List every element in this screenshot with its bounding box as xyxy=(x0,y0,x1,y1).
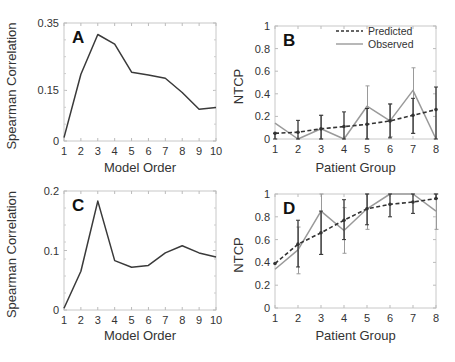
x-tick-label: 3 xyxy=(95,314,101,326)
data-marker xyxy=(319,127,323,131)
x-axis-label: Patient Group xyxy=(315,160,395,175)
x-tick-label: 4 xyxy=(112,145,118,157)
plot-frame xyxy=(275,194,436,308)
x-tick-label: 4 xyxy=(112,314,118,326)
panel-b: 1234567800.20.40.60.81Patient GroupNTCPB… xyxy=(231,20,439,175)
x-tick-label: 8 xyxy=(179,145,185,157)
panel-letter: D xyxy=(283,199,295,218)
data-marker xyxy=(388,119,392,123)
x-tick-label: 6 xyxy=(387,312,393,324)
y-tick-label: 0.35 xyxy=(38,17,59,29)
x-axis-label: Model Order xyxy=(104,160,177,175)
y-tick-label: 0.2 xyxy=(255,279,270,291)
y-tick-label: 0.4 xyxy=(255,88,270,100)
y-tick-label: 0.4 xyxy=(255,256,270,268)
data-marker xyxy=(273,262,277,266)
panel-letter: C xyxy=(72,196,84,215)
data-marker xyxy=(411,113,415,117)
x-tick-label: 7 xyxy=(410,312,416,324)
series-line-spearman-correlation xyxy=(64,201,216,308)
x-tick-label: 4 xyxy=(341,312,347,324)
x-tick-label: 3 xyxy=(318,143,324,155)
x-tick-label: 7 xyxy=(162,314,168,326)
data-marker xyxy=(388,202,392,206)
x-tick-label: 1 xyxy=(61,314,67,326)
y-tick-label: 0.15 xyxy=(38,84,59,96)
y-axis-label: NTCP xyxy=(231,237,246,272)
y-tick-label: 0.6 xyxy=(255,234,270,246)
series-line-spearman-correlation xyxy=(64,35,216,138)
legend-label: Predicted xyxy=(368,25,413,37)
data-marker xyxy=(273,132,277,136)
y-tick-label: 0.8 xyxy=(255,211,270,223)
y-tick-label: 0.1 xyxy=(44,245,59,257)
panel-a: 1234567891000.150.35Model OrderSpearman … xyxy=(4,17,222,175)
y-tick-label: 0.6 xyxy=(255,65,270,77)
x-tick-label: 3 xyxy=(95,145,101,157)
x-tick-label: 6 xyxy=(145,314,151,326)
y-tick-label: 0 xyxy=(264,133,270,145)
x-tick-label: 10 xyxy=(210,314,222,326)
y-tick-label: 0 xyxy=(53,135,59,147)
x-tick-label: 7 xyxy=(162,145,168,157)
series-line-predicted xyxy=(275,199,436,264)
data-marker xyxy=(319,231,323,235)
data-marker xyxy=(411,200,415,204)
chart-canvas: 1234567891000.150.35Model OrderSpearman … xyxy=(0,0,455,362)
panel-c: 1234567891000.10.2Model OrderSpearman Co… xyxy=(4,185,222,343)
panel-letter: B xyxy=(283,31,295,50)
x-axis-label: Patient Group xyxy=(315,328,395,343)
x-tick-label: 2 xyxy=(78,145,84,157)
x-tick-label: 1 xyxy=(272,143,278,155)
y-axis-label: Spearman Correlation xyxy=(4,191,19,318)
series-line-observed xyxy=(275,194,436,269)
y-tick-label: 1 xyxy=(264,188,270,200)
y-tick-label: 0.2 xyxy=(44,185,59,197)
x-tick-label: 9 xyxy=(196,314,202,326)
data-marker xyxy=(365,207,369,211)
y-axis-label: Spearman Correlation xyxy=(4,22,19,149)
x-tick-label: 5 xyxy=(364,312,370,324)
x-tick-label: 8 xyxy=(179,314,185,326)
figure: 1234567891000.150.35Model OrderSpearman … xyxy=(0,0,455,362)
legend-label: Observed xyxy=(368,38,414,50)
x-tick-label: 8 xyxy=(433,312,439,324)
x-tick-label: 6 xyxy=(387,143,393,155)
y-tick-label: 0.8 xyxy=(255,43,270,55)
y-tick-label: 1 xyxy=(264,20,270,32)
data-marker xyxy=(342,125,346,129)
y-axis-label: NTCP xyxy=(231,69,246,104)
x-tick-label: 1 xyxy=(61,145,67,157)
x-tick-label: 2 xyxy=(295,312,301,324)
data-marker xyxy=(296,242,300,246)
x-tick-label: 9 xyxy=(196,145,202,157)
panel-letter: A xyxy=(72,28,84,47)
x-tick-label: 4 xyxy=(341,143,347,155)
x-tick-label: 2 xyxy=(295,143,301,155)
panel-d: 1234567800.20.40.60.81Patient GroupNTCPD xyxy=(231,188,439,343)
x-tick-label: 8 xyxy=(433,143,439,155)
x-tick-label: 3 xyxy=(318,312,324,324)
x-tick-label: 7 xyxy=(410,143,416,155)
x-tick-label: 10 xyxy=(210,145,222,157)
y-tick-label: 0 xyxy=(53,304,59,316)
data-marker xyxy=(434,197,438,201)
data-marker xyxy=(296,130,300,134)
plot-frame xyxy=(64,23,216,141)
x-tick-label: 1 xyxy=(272,312,278,324)
x-tick-label: 5 xyxy=(128,314,134,326)
data-marker xyxy=(434,108,438,112)
y-tick-label: 0.2 xyxy=(255,110,270,122)
x-tick-label: 2 xyxy=(78,314,84,326)
data-marker xyxy=(365,123,369,127)
data-marker xyxy=(342,218,346,222)
y-tick-label: 0 xyxy=(264,302,270,314)
x-tick-label: 5 xyxy=(128,145,134,157)
x-tick-label: 5 xyxy=(364,143,370,155)
x-axis-label: Model Order xyxy=(104,328,177,343)
legend: PredictedObserved xyxy=(336,25,414,50)
x-tick-label: 6 xyxy=(145,145,151,157)
